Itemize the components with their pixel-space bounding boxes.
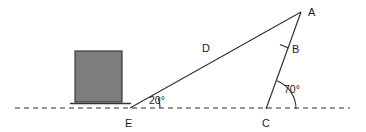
label-side-d: D xyxy=(202,42,210,54)
label-vertex-b: B xyxy=(292,43,299,55)
diagram-canvas: A B C E D 20° 70° xyxy=(0,0,366,132)
label-angle-e: 20° xyxy=(149,94,165,106)
geometry-diagram: A B C E D 20° 70° xyxy=(0,0,366,132)
label-vertex-a: A xyxy=(308,6,316,18)
gray-block xyxy=(75,51,122,102)
label-vertex-c: C xyxy=(262,117,270,129)
b-tick-icon xyxy=(280,45,289,49)
label-angle-c: 70° xyxy=(284,83,300,95)
label-vertex-e: E xyxy=(125,117,132,129)
